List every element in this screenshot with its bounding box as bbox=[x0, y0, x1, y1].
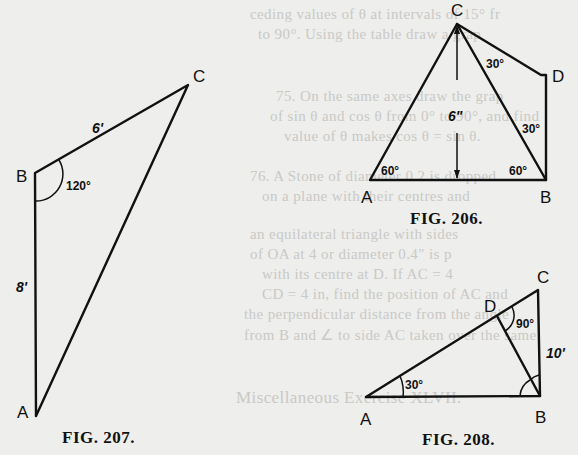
vertex-label-b: B bbox=[540, 188, 551, 207]
angle-arc-a bbox=[400, 376, 403, 397]
vertex-label-b: B bbox=[535, 408, 546, 427]
height-label: 6" bbox=[448, 108, 463, 124]
angle-label-a: 60° bbox=[381, 164, 399, 178]
angle-label-dbc: 30° bbox=[522, 122, 540, 136]
triangle-207 bbox=[35, 85, 188, 416]
side-label-bc: 6' bbox=[92, 120, 104, 136]
triangle-208 bbox=[366, 290, 540, 397]
angle-label-b: 60° bbox=[509, 164, 527, 178]
vertex-label-d: D bbox=[484, 297, 496, 316]
figure-208: C D A B 90° 30° 10' FIG. 208. bbox=[360, 268, 566, 449]
vertex-label-c: C bbox=[451, 1, 463, 20]
vertex-label-a: A bbox=[360, 410, 372, 429]
side-label-ab: 8' bbox=[16, 279, 28, 295]
vertex-label-a: A bbox=[361, 188, 373, 207]
caption-fig-208: FIG. 208. bbox=[422, 430, 495, 449]
side-label-bc: 10' bbox=[546, 345, 566, 361]
angle-arc-b bbox=[36, 160, 63, 201]
vertex-label-a: A bbox=[17, 403, 29, 422]
angle-label-b: 120° bbox=[66, 179, 91, 193]
triangle-206 bbox=[370, 24, 546, 180]
figure-206: C D A B 30° 30° 60° 60° 6" FIG. 206. bbox=[361, 1, 564, 228]
caption-fig-206: FIG. 206. bbox=[410, 209, 483, 228]
vertex-label-b: B bbox=[16, 167, 27, 186]
angle-label-d: 90° bbox=[516, 317, 534, 331]
caption-fig-207: FIG. 207. bbox=[62, 428, 135, 447]
figure-207: C B A 6' 120° 8' FIG. 207. bbox=[16, 67, 205, 447]
vertex-label-c: C bbox=[537, 268, 549, 287]
angle-label-a: 30° bbox=[405, 378, 423, 392]
vertex-label-d: D bbox=[552, 67, 564, 86]
arrow-down-icon bbox=[454, 170, 460, 179]
vertex-label-c: C bbox=[193, 67, 205, 86]
angle-label-dcb: 30° bbox=[486, 57, 504, 71]
angle-arc-b bbox=[520, 380, 530, 396]
